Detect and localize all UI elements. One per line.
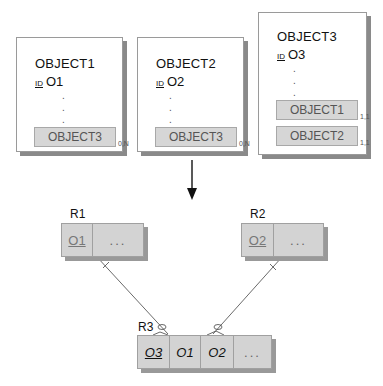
down-arrow-icon — [187, 188, 197, 200]
r1-label: R1 — [70, 207, 85, 221]
r2-more-cell: ... — [274, 224, 323, 256]
connector-lines — [0, 0, 383, 386]
r3-label: R3 — [138, 320, 153, 334]
r1-key-cell: O1 — [62, 224, 93, 256]
r3-fk-o1-cell: O1 — [170, 336, 201, 368]
r3-fk-o2-cell: O2 — [201, 336, 234, 368]
r3-table: O3 O1 O2 ... — [137, 335, 272, 369]
r2-key-cell: O2 — [242, 224, 274, 256]
r1-table: O1 ... — [61, 223, 144, 257]
r3-key-cell: O3 — [138, 336, 170, 368]
r1-more-cell: ... — [93, 224, 143, 256]
r2-label: R2 — [250, 207, 265, 221]
r2-table: O2 ... — [241, 223, 324, 257]
r3-more-cell: ... — [234, 336, 271, 368]
